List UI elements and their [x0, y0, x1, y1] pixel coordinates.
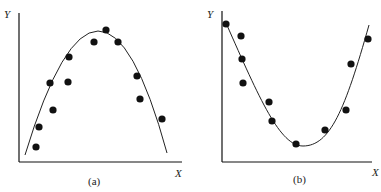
data-point — [342, 106, 349, 113]
data-point — [239, 79, 246, 86]
data-point — [158, 115, 165, 122]
data-point — [237, 32, 244, 39]
data-point — [64, 78, 71, 85]
data-point — [292, 140, 299, 147]
data-point — [49, 106, 56, 113]
data-points — [222, 20, 371, 147]
data-point — [90, 38, 97, 45]
data-point — [32, 143, 39, 150]
data-point — [65, 53, 72, 60]
data-point — [114, 38, 121, 45]
data-point — [46, 79, 53, 86]
panel-a: Y X (a) — [4, 8, 183, 188]
data-point — [222, 20, 229, 27]
y-axis-label: Y — [207, 8, 215, 20]
figure: Y X (a) Y X (b) — [0, 0, 381, 192]
data-point — [136, 95, 143, 102]
panel-caption: (b) — [293, 173, 306, 186]
y-axis-label: Y — [4, 8, 12, 20]
data-point — [238, 55, 245, 62]
fit-curve — [25, 31, 167, 155]
data-point — [102, 26, 109, 33]
data-point — [268, 117, 275, 124]
data-point — [321, 126, 328, 133]
data-point — [364, 35, 371, 42]
data-point — [265, 98, 272, 105]
panel-caption: (a) — [88, 175, 101, 188]
x-axis-label: X — [174, 167, 183, 179]
data-point — [35, 123, 42, 130]
panel-b: Y X (b) — [207, 8, 380, 186]
x-axis-label: X — [371, 166, 380, 178]
fit-curve — [226, 23, 369, 146]
data-point — [133, 72, 140, 79]
data-point — [347, 60, 354, 67]
